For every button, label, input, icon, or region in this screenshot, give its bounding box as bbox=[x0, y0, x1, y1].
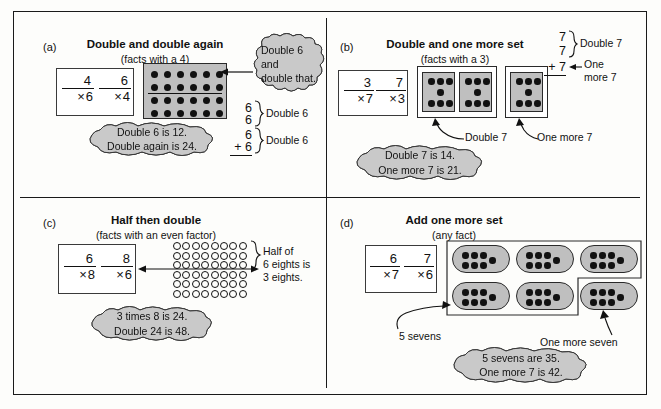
fact-d-2-bottom: ×6 bbox=[404, 266, 434, 282]
array-dot bbox=[480, 252, 487, 259]
fact-a-2-bottom: ×4 bbox=[99, 88, 131, 104]
array-dot bbox=[203, 110, 210, 117]
array-circle bbox=[173, 280, 181, 288]
array-dot bbox=[608, 262, 615, 269]
column-b-arrow-label-1: One bbox=[584, 58, 604, 72]
fact-b-1: 3 ×7 bbox=[344, 75, 374, 107]
array-dot bbox=[534, 100, 541, 107]
array-dot bbox=[535, 299, 542, 306]
array-dot bbox=[553, 257, 560, 264]
fact-d-1-top: 6 bbox=[370, 251, 400, 266]
array-dot bbox=[534, 78, 541, 85]
array-split-line bbox=[148, 93, 222, 94]
array-dot bbox=[590, 252, 597, 259]
array-dot bbox=[599, 252, 606, 259]
fact-a-2: 6 ×4 bbox=[99, 73, 131, 105]
array-dot bbox=[216, 84, 223, 91]
fact-a-1-bottom: ×6 bbox=[62, 88, 94, 104]
array-circle bbox=[239, 252, 247, 260]
array-circle bbox=[173, 242, 181, 250]
column-b-n3: + 7 bbox=[544, 60, 566, 76]
quadrant-a-label: (a) bbox=[43, 41, 56, 53]
set-d-4 bbox=[452, 282, 510, 310]
array-dot bbox=[428, 100, 435, 107]
array-circle bbox=[192, 252, 200, 260]
array-dot bbox=[526, 289, 533, 296]
array-dot bbox=[462, 289, 469, 296]
array-dot bbox=[203, 84, 210, 91]
brace-a-2 bbox=[254, 127, 264, 154]
array-dot bbox=[489, 294, 496, 301]
extra-set-d bbox=[580, 282, 638, 310]
array-dot bbox=[151, 110, 158, 117]
array-circle bbox=[229, 280, 237, 288]
array-dot bbox=[553, 294, 560, 301]
array-circle bbox=[182, 280, 190, 288]
arrow-onemore-b bbox=[569, 63, 583, 73]
array-dot bbox=[474, 78, 481, 85]
array-dot bbox=[177, 97, 184, 104]
fact-c-2: 8 ×6 bbox=[101, 251, 133, 283]
brace-a-1 bbox=[254, 100, 264, 127]
array-circle bbox=[211, 280, 219, 288]
array-dot bbox=[446, 100, 453, 107]
brace-b-label: Double 7 bbox=[580, 37, 622, 51]
quadrant-c-subtitle: (facts with an even factor) bbox=[66, 229, 246, 241]
array-dot bbox=[489, 257, 496, 264]
column-b-n1: 7 bbox=[552, 30, 566, 45]
array-circle bbox=[239, 242, 247, 250]
fact-d-1: 6 ×7 bbox=[370, 251, 400, 283]
column-a-g2-n2: + 6 bbox=[230, 140, 252, 156]
array-circle bbox=[239, 290, 247, 298]
array-circle bbox=[182, 242, 190, 250]
quadrant-d-label: (d) bbox=[340, 217, 353, 229]
result-b-line-2: One more 7 is 21. bbox=[378, 163, 461, 177]
annotation-b-onemore7: One more 7 bbox=[537, 131, 592, 145]
array-dot bbox=[177, 110, 184, 117]
array-circle bbox=[192, 290, 200, 298]
array-circle bbox=[220, 290, 228, 298]
array-dot bbox=[471, 252, 478, 259]
brace-c bbox=[250, 240, 261, 270]
array-dot bbox=[151, 71, 158, 78]
array-circle bbox=[220, 242, 228, 250]
array-circle bbox=[239, 280, 247, 288]
array-dot bbox=[525, 100, 532, 107]
result-cloud-b: Double 7 is 14. One more 7 is 21. bbox=[353, 144, 487, 181]
array-circle bbox=[229, 242, 237, 250]
array-circle bbox=[192, 280, 200, 288]
array-circle bbox=[201, 242, 209, 250]
array-dot bbox=[480, 299, 487, 306]
fact-b-2-bottom: ×3 bbox=[376, 90, 406, 106]
array-dot bbox=[599, 262, 606, 269]
result-d-line-2: One more 7 is 42. bbox=[479, 365, 562, 379]
annotation-d-5sevens: 5 sevens bbox=[399, 330, 441, 344]
array-dot bbox=[471, 299, 478, 306]
quadrant-b-subtitle: (facts with a 3) bbox=[362, 53, 548, 65]
result-cloud-d: 5 sevens are 35. One more 7 is 42. bbox=[450, 346, 592, 384]
array-dot bbox=[526, 299, 533, 306]
array-dot bbox=[177, 84, 184, 91]
result-c-line-2: Double 24 is 48. bbox=[114, 324, 190, 338]
fact-c-2-top: 8 bbox=[101, 251, 133, 266]
array-dot bbox=[437, 89, 444, 96]
array-dot bbox=[474, 89, 481, 96]
array-dot bbox=[164, 71, 171, 78]
fact-c-1-top: 6 bbox=[64, 251, 96, 266]
array-circle bbox=[220, 252, 228, 260]
brace-a-1-label: Double 6 bbox=[266, 107, 308, 121]
array-dot bbox=[544, 262, 551, 269]
callout-a-line-3: double that. bbox=[261, 71, 327, 85]
arrow-double7-b bbox=[430, 118, 466, 140]
array-dot bbox=[190, 97, 197, 104]
array-dot bbox=[483, 78, 490, 85]
array-circle bbox=[229, 290, 237, 298]
result-a-line-1: Double 6 is 12. bbox=[117, 125, 187, 139]
fact-b-1-bottom: ×7 bbox=[344, 90, 374, 106]
array-dot bbox=[190, 84, 197, 91]
array-dot bbox=[617, 294, 624, 301]
fact-c-2-bottom: ×6 bbox=[101, 266, 133, 282]
array-dot bbox=[216, 110, 223, 117]
set-d-3 bbox=[580, 245, 638, 273]
array-dot bbox=[599, 299, 606, 306]
